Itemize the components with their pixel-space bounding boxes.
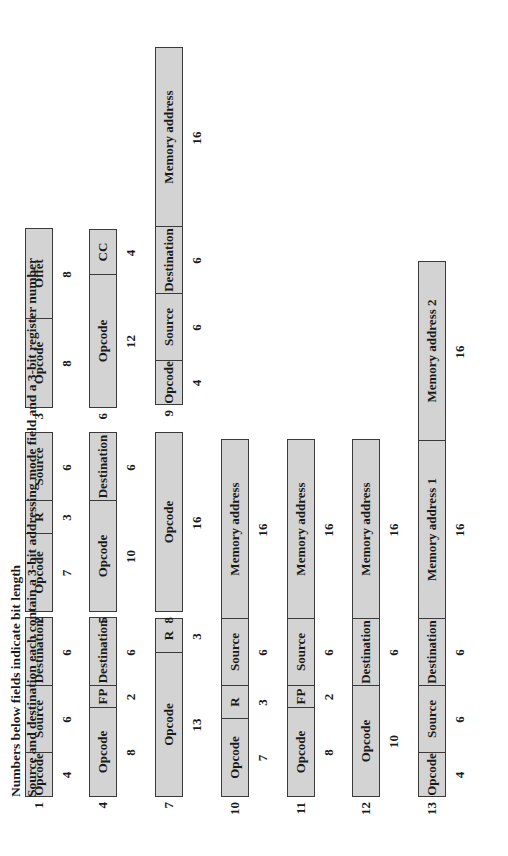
bit-length: 6 bbox=[255, 619, 271, 686]
format-number: 1 bbox=[25, 802, 53, 824]
bit-lengths: 88 bbox=[59, 230, 75, 408]
field-source: Source bbox=[156, 293, 182, 360]
field-destination: Destination bbox=[90, 433, 116, 500]
field-destination: Destination bbox=[419, 618, 445, 685]
bit-lengths: 16 bbox=[189, 434, 205, 612]
format-box: OpcodeCC bbox=[89, 229, 117, 408]
field-fp: FP bbox=[288, 685, 314, 707]
bit-length: 16 bbox=[189, 49, 205, 227]
field-destination: Destination bbox=[353, 618, 379, 685]
field-memory-address-1: Memory address 1 bbox=[419, 440, 445, 618]
bit-length: 8 bbox=[123, 708, 139, 797]
bit-length: 12 bbox=[123, 275, 139, 408]
format-box: OpcodeSourceDestinationMemory address 1M… bbox=[418, 261, 446, 797]
bit-lengths: 133 bbox=[189, 620, 205, 797]
field-opcode: Opcode bbox=[222, 718, 248, 796]
field-opcode: Opcode bbox=[90, 274, 116, 407]
bit-length: 4 bbox=[123, 231, 139, 275]
format-box: OpcodeR bbox=[155, 618, 183, 797]
format-number: 10 bbox=[221, 802, 249, 824]
bit-length: 3 bbox=[189, 620, 205, 653]
bit-lengths: 82616 bbox=[321, 441, 337, 797]
field-memory-address-2: Memory address 2 bbox=[419, 262, 445, 440]
bit-length: 6 bbox=[386, 619, 402, 686]
field-opcode: Opcode bbox=[90, 500, 116, 611]
field-opcode: Opcode bbox=[156, 652, 182, 796]
bit-length: 6 bbox=[189, 294, 205, 361]
bit-length: 6 bbox=[123, 434, 139, 501]
format-number: 12 bbox=[352, 802, 380, 824]
format-number: 9 bbox=[155, 410, 183, 432]
bit-length: 8 bbox=[59, 319, 75, 408]
bit-lengths: 736 bbox=[59, 434, 75, 612]
field-memory-address: Memory address bbox=[353, 440, 379, 618]
bit-length: 4 bbox=[189, 361, 205, 405]
format-box: OpcodeDestinationMemory address bbox=[352, 439, 380, 797]
bit-length: 4 bbox=[59, 753, 75, 797]
bit-lengths: 124 bbox=[123, 231, 139, 408]
bit-length: 8 bbox=[59, 230, 75, 319]
bit-length: 2 bbox=[321, 686, 337, 708]
bit-lengths: 106 bbox=[123, 434, 139, 612]
format-number: 7 bbox=[155, 802, 183, 824]
bit-length: 10 bbox=[123, 501, 139, 612]
format-number: 4 bbox=[89, 802, 117, 824]
field-memory-address: Memory address bbox=[288, 440, 314, 618]
note-source-destination: Source and destination each contain a 3-… bbox=[24, 258, 40, 797]
bit-length: 7 bbox=[59, 534, 75, 612]
format-number: 6 bbox=[89, 413, 117, 435]
format-number: 5 bbox=[89, 617, 117, 639]
bit-lengths: 466 bbox=[59, 619, 75, 797]
bit-length: 16 bbox=[452, 263, 468, 441]
field-memory-address: Memory address bbox=[156, 48, 182, 226]
bit-lengths: 4661616 bbox=[452, 263, 468, 797]
format-box: OpcodeRSourceMemory address bbox=[221, 439, 249, 797]
format-box: OpcodeDestination bbox=[89, 432, 117, 612]
bit-length: 10 bbox=[386, 686, 402, 797]
bit-length: 6 bbox=[189, 227, 205, 294]
bit-lengths: 10616 bbox=[386, 441, 402, 797]
bit-length: 6 bbox=[452, 619, 468, 686]
bit-length: 16 bbox=[452, 441, 468, 619]
field-memory-address: Memory address bbox=[222, 440, 248, 618]
format-box: OpcodeFPSourceMemory address bbox=[287, 439, 315, 797]
format-box: Opcode bbox=[155, 432, 183, 612]
bit-length: 8 bbox=[321, 708, 337, 797]
format-box: OpcodeSourceDestinationMemory address bbox=[155, 47, 183, 405]
field-source: Source bbox=[288, 618, 314, 685]
bit-length: 3 bbox=[59, 501, 75, 534]
bit-length: 16 bbox=[386, 441, 402, 619]
instruction-formats-diagram: 1OpcodeSourceDestination4662OpcodeRSourc… bbox=[0, 0, 508, 856]
field-source: Source bbox=[419, 685, 445, 752]
bit-length: 4 bbox=[452, 753, 468, 797]
note-bit-length: Numbers below fields indicate bit length bbox=[8, 565, 24, 797]
bit-length: 6 bbox=[59, 434, 75, 501]
bit-length: 6 bbox=[452, 686, 468, 753]
bit-length: 16 bbox=[255, 441, 271, 619]
bit-length: 3 bbox=[255, 686, 271, 719]
bit-length: 7 bbox=[255, 719, 271, 797]
bit-length: 6 bbox=[59, 619, 75, 686]
bit-length: 6 bbox=[321, 619, 337, 686]
field-fp: FP bbox=[90, 685, 116, 707]
field-opcode: Opcode bbox=[156, 433, 182, 611]
bit-lengths: 826 bbox=[123, 619, 139, 797]
bit-length: 13 bbox=[189, 653, 205, 797]
bit-length: 2 bbox=[123, 686, 139, 708]
format-number: 11 bbox=[287, 802, 315, 824]
format-number: 13 bbox=[418, 802, 446, 824]
format-box: OpcodeFPDestination bbox=[89, 617, 117, 797]
field-opcode: Opcode bbox=[288, 707, 314, 796]
field-source: Source bbox=[222, 618, 248, 685]
field-r: R bbox=[222, 685, 248, 718]
field-opcode: Opcode bbox=[90, 707, 116, 796]
bit-length: 6 bbox=[59, 686, 75, 753]
field-destination: Destination bbox=[156, 226, 182, 293]
field-opcode: Opcode bbox=[156, 360, 182, 404]
bit-length: 16 bbox=[189, 434, 205, 612]
bit-lengths: 73616 bbox=[255, 441, 271, 797]
bit-length: 16 bbox=[321, 441, 337, 619]
format-number: 8 bbox=[155, 617, 183, 639]
bit-length: 6 bbox=[123, 619, 139, 686]
bit-lengths: 46616 bbox=[189, 49, 205, 405]
